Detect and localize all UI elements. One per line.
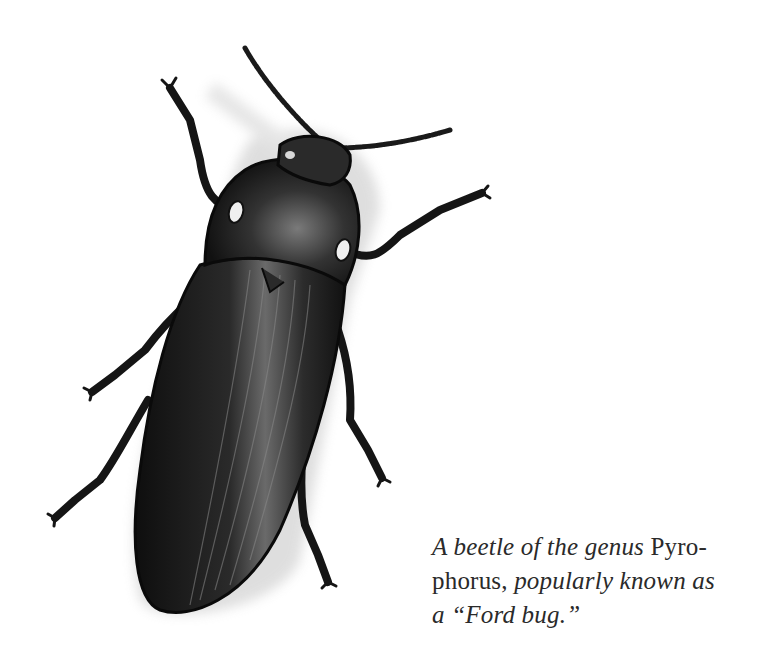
- caption-line3-italic: a “Ford bug.”: [432, 601, 580, 628]
- caption-line2-italic: popularly known as: [514, 567, 715, 594]
- caption-genus-part2: phorus,: [432, 567, 514, 594]
- caption-line1-italic: A beetle of the genus: [432, 533, 650, 560]
- beetle-elytra: [135, 258, 345, 612]
- caption-genus-part1: Pyro-: [650, 533, 707, 560]
- figure-caption: A beetle of the genus Pyro- phorus, popu…: [432, 530, 777, 632]
